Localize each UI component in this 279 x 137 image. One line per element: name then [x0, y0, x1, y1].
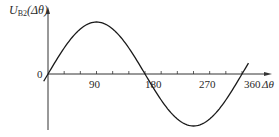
y-axis: [46, 7, 50, 130]
x-axis-label: Δθ: [262, 79, 274, 90]
tick-label-270: 270: [199, 79, 216, 90]
x-axis: [48, 72, 272, 76]
tick-label-90: 90: [89, 79, 100, 90]
tick-label-180: 180: [145, 79, 162, 90]
tick-label-360: 360: [244, 79, 261, 90]
y-axis-label: UB2(Δθ): [9, 4, 48, 18]
x-axis-arrow-icon: [264, 72, 272, 76]
origin-label: 0: [37, 69, 43, 80]
